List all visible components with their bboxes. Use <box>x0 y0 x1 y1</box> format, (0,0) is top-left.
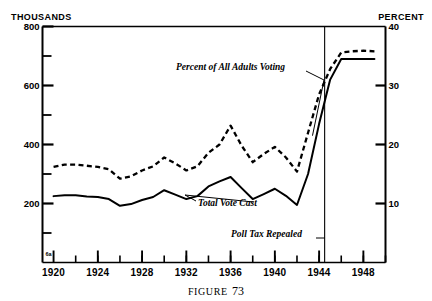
vote-chart <box>0 0 432 301</box>
axis-tick-label: 800 <box>0 21 40 32</box>
axis-tick-label: 1936 <box>211 267 251 278</box>
axis-tick-label: 40 <box>389 21 400 32</box>
axis-tick-label: 30 <box>389 80 400 91</box>
axis-tick-label: 1948 <box>343 267 383 278</box>
figure-caption: FIGURE 73 <box>0 281 432 299</box>
figure-caption-prefix: FIGURE <box>188 286 228 297</box>
annotation-total-vote-cast: Total Vote Cast <box>198 198 257 208</box>
axis-tick-label: 200 <box>0 198 40 209</box>
series-total-vote-cast <box>54 59 375 206</box>
axis-tick-label: 1920 <box>34 267 74 278</box>
right-axis-major-ticks <box>376 86 386 204</box>
axis-tick-label: 1924 <box>78 267 118 278</box>
axis-tick-label: 1932 <box>166 267 206 278</box>
x-axis-minor-ticks <box>76 256 386 263</box>
axis-tick-label: 10 <box>389 198 400 209</box>
axis-tick-label: 20 <box>389 139 400 150</box>
right-axis-title: PERCENT <box>378 12 424 22</box>
figure-caption-number: 73 <box>232 284 244 298</box>
axis-tick-label: 1928 <box>122 267 162 278</box>
axis-tick-label: 400 <box>0 139 40 150</box>
figure-container: THOUSANDS PERCENT 800600400200 40302010 … <box>0 0 432 301</box>
annotation-percent-of-all-adults-voting: Percent of All Adults Voting <box>176 62 285 72</box>
axis-tick-label: 1940 <box>255 267 295 278</box>
axis-tick-label: 600 <box>0 80 40 91</box>
axis-tick-label: 1944 <box>299 267 339 278</box>
corner-mark: 6a <box>46 251 52 257</box>
annotation-poll-tax-repealed: Poll Tax Repealed <box>231 229 302 239</box>
